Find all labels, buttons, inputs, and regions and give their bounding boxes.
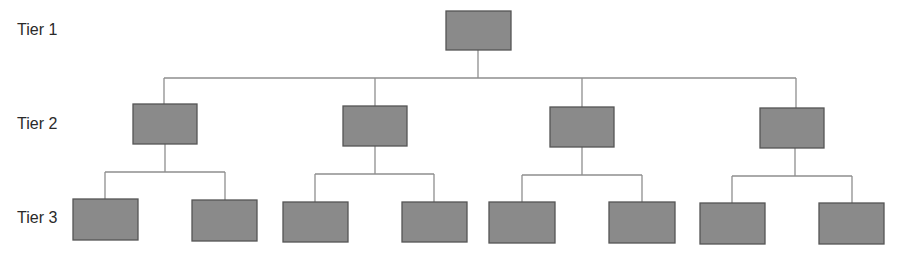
tier3-node-6 (609, 202, 675, 243)
tier2c-connectors (522, 147, 642, 202)
tier3-node-1 (73, 199, 138, 240)
tier3-node-4 (402, 202, 467, 242)
tier2-node-3 (550, 107, 614, 147)
tier1-node-root (446, 11, 511, 50)
tier3-node-5 (489, 202, 555, 243)
tier3-node-7 (700, 203, 765, 244)
tier3-node-3 (283, 202, 348, 242)
tier1-connectors (164, 50, 796, 108)
tier2a-connectors (105, 144, 225, 200)
tier3-node-2 (192, 200, 257, 241)
tier2d-connectors (732, 148, 852, 203)
tier2b-connectors (315, 146, 434, 202)
tier3-node-8 (819, 203, 884, 244)
tier2-node-2 (343, 106, 407, 146)
tier2-node-1 (133, 104, 197, 144)
hierarchy-diagram (0, 0, 898, 259)
tier2-node-4 (760, 108, 824, 148)
